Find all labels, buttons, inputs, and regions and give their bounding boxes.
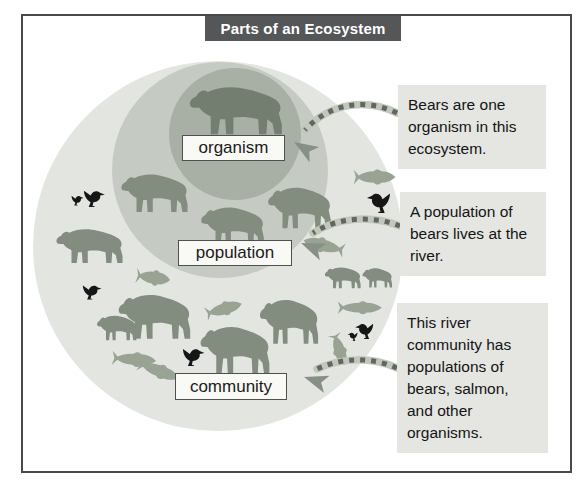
- community-callout: This river community has populations of …: [397, 303, 548, 453]
- page: Parts of an Ecosystem organism populatio…: [0, 0, 583, 480]
- community-label: community: [175, 373, 287, 400]
- population-callout: A population of bears lives at the river…: [400, 192, 546, 276]
- population-label: population: [178, 240, 292, 266]
- page-title: Parts of an Ecosystem: [205, 16, 401, 41]
- organism-callout: Bears are one organism in this ecosystem…: [398, 85, 546, 169]
- organism-label: organism: [182, 135, 285, 161]
